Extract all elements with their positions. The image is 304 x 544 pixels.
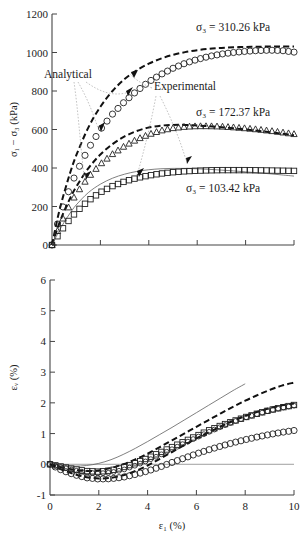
data-marker bbox=[286, 168, 291, 173]
series-4 bbox=[52, 168, 294, 245]
y-tick-label: 200 bbox=[32, 201, 49, 213]
leader-line bbox=[78, 82, 98, 128]
x-tick-label: 8 bbox=[242, 500, 248, 512]
y-tick-label: -1 bbox=[37, 489, 46, 501]
figure-container: 020040060080010001200σ₁ − σ₃ (kPa)σ₃ = 3… bbox=[0, 0, 304, 544]
data-marker bbox=[106, 470, 111, 475]
y-axis-title: εᵥ (%) bbox=[8, 364, 20, 390]
data-marker bbox=[95, 471, 100, 476]
data-marker bbox=[260, 410, 265, 415]
data-marker bbox=[159, 171, 164, 176]
data-marker bbox=[280, 168, 285, 173]
y-tick-label: 1000 bbox=[26, 47, 49, 59]
data-marker bbox=[236, 167, 241, 172]
y-tick-label: 2 bbox=[41, 397, 47, 409]
data-marker bbox=[269, 168, 274, 173]
data-marker bbox=[120, 100, 126, 106]
data-marker bbox=[77, 206, 82, 211]
data-marker bbox=[65, 189, 71, 195]
y-tick-label: 6 bbox=[41, 274, 47, 286]
data-marker bbox=[187, 168, 192, 173]
data-marker bbox=[126, 178, 131, 183]
data-marker bbox=[93, 133, 99, 139]
arrow-head bbox=[85, 171, 91, 180]
y-tick-label: 800 bbox=[32, 85, 49, 97]
data-marker bbox=[104, 186, 109, 191]
x-tick-label: 0 bbox=[47, 500, 53, 512]
data-marker bbox=[137, 135, 143, 141]
data-marker bbox=[76, 163, 82, 169]
data-marker bbox=[181, 169, 186, 174]
data-marker bbox=[275, 168, 280, 173]
data-marker bbox=[101, 471, 106, 476]
data-marker bbox=[142, 132, 148, 138]
data-marker bbox=[82, 178, 88, 184]
data-marker bbox=[148, 172, 153, 177]
data-marker bbox=[71, 175, 77, 181]
data-marker bbox=[291, 168, 296, 173]
data-marker bbox=[104, 118, 110, 124]
data-marker bbox=[121, 179, 126, 184]
svg-text:σ₁ − σ₃ (kPa): σ₁ − σ₃ (kPa) bbox=[8, 101, 20, 157]
y-tick-label: 1200 bbox=[26, 8, 49, 20]
data-marker bbox=[137, 85, 143, 91]
y-tick-label: 4 bbox=[41, 335, 47, 347]
y-tick-label: 0 bbox=[41, 458, 47, 470]
y-tick-label: 600 bbox=[32, 124, 49, 136]
x-axis-title: ε₁ (%) bbox=[159, 520, 186, 532]
data-marker bbox=[258, 168, 263, 173]
data-marker bbox=[115, 105, 121, 111]
y-tick-label: 1 bbox=[41, 428, 47, 440]
data-marker bbox=[241, 125, 247, 131]
data-marker bbox=[209, 168, 214, 173]
arrow-head bbox=[131, 70, 138, 78]
data-marker bbox=[276, 406, 281, 411]
data-marker bbox=[233, 419, 238, 424]
data-marker bbox=[90, 471, 95, 476]
label-sigma3-172: σ₃ = 172.37 kPa bbox=[196, 106, 270, 118]
data-marker bbox=[93, 193, 98, 198]
data-marker bbox=[176, 169, 181, 174]
x-tick-label: 10 bbox=[289, 500, 301, 512]
data-marker bbox=[131, 90, 137, 96]
y-tick-label: 3 bbox=[41, 366, 47, 378]
data-marker bbox=[249, 413, 254, 418]
curve bbox=[50, 383, 294, 471]
y-tick-label: 5 bbox=[41, 305, 47, 317]
data-marker bbox=[269, 128, 275, 134]
svg-text:εᵥ (%): εᵥ (%) bbox=[8, 364, 20, 390]
x-tick-label: 4 bbox=[145, 500, 151, 512]
curve bbox=[52, 168, 294, 245]
label-analytical: Analytical bbox=[44, 68, 92, 81]
data-marker bbox=[82, 152, 88, 158]
x-tick-label: 2 bbox=[96, 500, 102, 512]
chart-panel-deviator-stress: 020040060080010001200σ₁ − σ₃ (kPa)σ₃ = 3… bbox=[0, 0, 304, 272]
data-marker bbox=[132, 176, 137, 181]
data-marker bbox=[143, 173, 148, 178]
data-marker bbox=[109, 151, 115, 157]
y-tick-label: 400 bbox=[32, 162, 49, 174]
data-marker bbox=[153, 129, 159, 135]
data-marker bbox=[264, 168, 269, 173]
data-marker bbox=[154, 172, 159, 177]
arrow-head bbox=[186, 156, 192, 164]
y-axis-title: σ₁ − σ₃ (kPa) bbox=[8, 101, 20, 157]
data-marker bbox=[115, 147, 121, 153]
data-marker bbox=[76, 186, 82, 192]
data-marker bbox=[170, 170, 175, 175]
data-marker bbox=[115, 181, 120, 186]
data-marker bbox=[111, 470, 116, 475]
leader-line bbox=[74, 82, 84, 176]
x-tick-label: 6 bbox=[194, 500, 200, 512]
label-experimental: Experimental bbox=[154, 80, 216, 93]
axes: -101234560246810 bbox=[37, 274, 300, 512]
data-marker bbox=[203, 168, 208, 173]
data-marker bbox=[137, 175, 142, 180]
data-marker bbox=[82, 201, 87, 206]
data-marker bbox=[99, 189, 104, 194]
data-marker bbox=[109, 111, 115, 117]
data-marker bbox=[60, 226, 65, 231]
data-marker bbox=[231, 167, 236, 172]
data-marker bbox=[286, 404, 291, 409]
data-marker bbox=[175, 444, 180, 449]
